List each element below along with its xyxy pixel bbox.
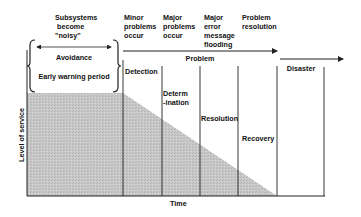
stage-detection: Detection <box>125 67 158 76</box>
event-major-problems: Major problems occur <box>163 13 195 40</box>
event-minor-problems: Minor problems occur <box>124 13 156 40</box>
phase-problem: Problem <box>123 54 277 63</box>
event-subsystems-noisy: Subsystems become "noisy" <box>55 13 97 40</box>
x-axis-label: Time <box>170 199 187 208</box>
left-brace <box>27 40 35 92</box>
stage-determination: Determ -ination <box>163 89 189 107</box>
phase-disaster: Disaster <box>278 64 324 73</box>
service-level-area <box>27 93 277 196</box>
event-problem-resolution: Problem resolution <box>242 13 277 31</box>
phase-avoidance: Avoidance <box>30 53 118 62</box>
event-message-flooding: Major error message flooding <box>204 13 235 49</box>
phase-early-warning: Early warning period <box>30 72 118 81</box>
y-axis-label: Level of service <box>17 108 26 162</box>
stage-recovery: Recovery <box>242 134 274 143</box>
stage-resolution: Resolution <box>201 114 238 123</box>
right-brace <box>113 40 121 92</box>
